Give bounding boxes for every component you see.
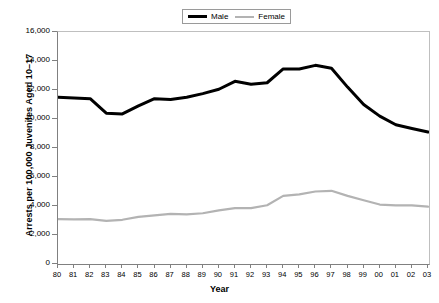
y-axis-tick-label: 4,000: [0, 201, 50, 209]
legend-swatch-female-icon: [235, 16, 254, 18]
y-axis-tick-label-text: 0: [2, 259, 50, 267]
x-axis-tick: [379, 264, 380, 268]
x-axis-title: Year: [0, 284, 439, 294]
x-axis-tick: [170, 264, 171, 268]
x-axis-tick: [234, 264, 235, 268]
x-axis-tick: [105, 264, 106, 268]
series-container: [58, 32, 429, 264]
y-axis-tick-label-text: 14,000: [2, 56, 50, 64]
y-axis-tick-label-text: 12,000: [2, 85, 50, 93]
x-axis-tick: [137, 264, 138, 268]
x-axis-tick: [186, 264, 187, 268]
x-axis-tick: [89, 264, 90, 268]
plot-area: [57, 31, 430, 265]
chart-legend: Male Female: [182, 9, 291, 24]
y-axis-tick-label-text: 6,000: [2, 172, 50, 180]
series-line-male: [58, 65, 428, 132]
x-axis-tick: [363, 264, 364, 268]
x-axis-tick-label: 03: [417, 270, 437, 279]
y-axis-tick-label: 12,000: [0, 85, 50, 93]
legend-label-male: Male: [211, 12, 228, 21]
y-axis-tick-label: 14,000: [0, 56, 50, 64]
x-axis-tick: [395, 264, 396, 268]
y-axis-tick-label: 8,000: [0, 143, 50, 151]
x-axis-tick: [202, 264, 203, 268]
x-axis-tick: [347, 264, 348, 268]
y-axis-tick-label: 0: [0, 259, 50, 267]
y-axis-tick-label: 16,000: [0, 27, 50, 35]
legend-entry-female: Female: [235, 12, 285, 21]
juvenile-arrest-rate-chart: Male Female Arrests per 100,000 Juvenile…: [0, 0, 439, 303]
x-axis-tick: [250, 264, 251, 268]
y-axis-tick-label-text: 2,000: [2, 230, 50, 238]
x-axis-tick: [57, 264, 58, 268]
y-axis-tick-label-text: 10,000: [2, 114, 50, 122]
x-axis-tick: [427, 264, 428, 268]
y-axis-tick-label: 6,000: [0, 172, 50, 180]
y-axis-tick-label: 2,000: [0, 230, 50, 238]
legend-swatch-male-icon: [188, 15, 207, 18]
x-axis-tick: [266, 264, 267, 268]
series-line-female: [58, 191, 428, 221]
legend-label-female: Female: [258, 12, 285, 21]
y-axis-tick-label-text: 16,000: [2, 27, 50, 35]
x-axis-tick: [218, 264, 219, 268]
x-axis-tick: [282, 264, 283, 268]
y-axis-tick-label-text: 4,000: [2, 201, 50, 209]
legend-entry-male: Male: [188, 12, 228, 21]
y-axis-tick-label: 10,000: [0, 114, 50, 122]
x-axis-tick: [330, 264, 331, 268]
x-axis-tick: [314, 264, 315, 268]
x-axis-tick: [298, 264, 299, 268]
x-axis-tick: [411, 264, 412, 268]
x-axis-tick: [73, 264, 74, 268]
x-axis-tick: [121, 264, 122, 268]
x-axis-tick: [154, 264, 155, 268]
y-axis-tick-label-text: 8,000: [2, 143, 50, 151]
